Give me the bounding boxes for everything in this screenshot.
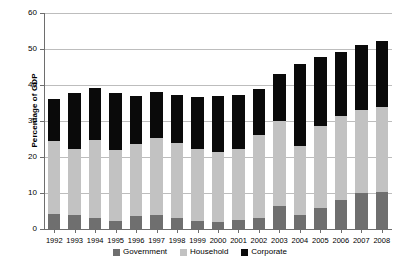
legend-label: Corporate bbox=[251, 248, 287, 256]
bar-segment-household[interactable] bbox=[130, 144, 143, 216]
bar-segment-government[interactable] bbox=[48, 214, 61, 229]
bar-column[interactable] bbox=[109, 13, 122, 229]
legend-item-government[interactable]: Government bbox=[113, 248, 167, 256]
bar-segment-government[interactable] bbox=[273, 206, 286, 229]
bar-segment-corporate[interactable] bbox=[355, 45, 368, 111]
bar-segment-household[interactable] bbox=[253, 135, 266, 218]
bar-segment-corporate[interactable] bbox=[48, 99, 61, 141]
bar-column[interactable] bbox=[68, 13, 81, 229]
x-tick-mark bbox=[95, 229, 96, 233]
bar-column[interactable] bbox=[171, 13, 184, 229]
y-tick-mark bbox=[40, 49, 44, 50]
x-tick-mark bbox=[382, 229, 383, 233]
bar-segment-government[interactable] bbox=[376, 192, 389, 229]
bar-column[interactable] bbox=[48, 13, 61, 229]
x-tick-label: 1995 bbox=[105, 237, 127, 245]
y-tick-label: 30 bbox=[11, 117, 37, 125]
bar-segment-government[interactable] bbox=[68, 215, 81, 229]
bar-segment-government[interactable] bbox=[150, 215, 163, 229]
bar-segment-government[interactable] bbox=[212, 222, 225, 229]
x-tick-label: 2003 bbox=[268, 237, 290, 245]
bar-segment-government[interactable] bbox=[232, 220, 245, 229]
bar-segment-corporate[interactable] bbox=[232, 95, 245, 149]
bar-segment-government[interactable] bbox=[89, 218, 102, 229]
x-tick-label: 2005 bbox=[309, 237, 331, 245]
legend-label: Government bbox=[123, 248, 167, 256]
x-tick-mark bbox=[136, 229, 137, 233]
bar-segment-government[interactable] bbox=[253, 218, 266, 229]
bar-segment-government[interactable] bbox=[130, 216, 143, 229]
bar-column[interactable] bbox=[355, 13, 368, 229]
bar-segment-corporate[interactable] bbox=[335, 52, 348, 116]
bar-column[interactable] bbox=[314, 13, 327, 229]
bar-segment-household[interactable] bbox=[191, 149, 204, 221]
legend-item-household[interactable]: Household bbox=[180, 248, 228, 256]
bar-segment-household[interactable] bbox=[355, 110, 368, 193]
x-tick-mark bbox=[198, 229, 199, 233]
bar-segment-household[interactable] bbox=[232, 149, 245, 220]
plot-area bbox=[44, 13, 392, 229]
bar-segment-household[interactable] bbox=[68, 149, 81, 215]
x-tick-mark bbox=[279, 229, 280, 233]
bar-segment-government[interactable] bbox=[109, 221, 122, 229]
bar-segment-household[interactable] bbox=[294, 146, 307, 214]
bar-segment-government[interactable] bbox=[355, 193, 368, 229]
bar-segment-corporate[interactable] bbox=[150, 92, 163, 138]
bar-column[interactable] bbox=[191, 13, 204, 229]
bar-column[interactable] bbox=[294, 13, 307, 229]
bar-segment-corporate[interactable] bbox=[273, 74, 286, 121]
x-tick-label: 2004 bbox=[289, 237, 311, 245]
legend-swatch-corporate bbox=[241, 249, 248, 256]
y-tick-label: 60 bbox=[11, 9, 37, 17]
bar-segment-government[interactable] bbox=[314, 208, 327, 229]
bar-segment-corporate[interactable] bbox=[171, 95, 184, 143]
legend-swatch-government bbox=[113, 249, 120, 256]
bar-segment-household[interactable] bbox=[48, 141, 61, 214]
bar-segment-corporate[interactable] bbox=[89, 88, 102, 140]
x-tick-mark bbox=[157, 229, 158, 233]
x-tick-mark bbox=[116, 229, 117, 233]
bar-segment-household[interactable] bbox=[273, 121, 286, 206]
bar-column[interactable] bbox=[376, 13, 389, 229]
bar-column[interactable] bbox=[89, 13, 102, 229]
x-tick-label: 2007 bbox=[350, 237, 372, 245]
y-tick-label: 20 bbox=[11, 153, 37, 161]
bar-segment-corporate[interactable] bbox=[314, 57, 327, 126]
bar-segment-corporate[interactable] bbox=[109, 93, 122, 150]
bar-column[interactable] bbox=[130, 13, 143, 229]
bar-segment-corporate[interactable] bbox=[294, 64, 307, 146]
y-axis-line bbox=[44, 13, 45, 229]
bar-column[interactable] bbox=[232, 13, 245, 229]
bar-segment-household[interactable] bbox=[150, 138, 163, 215]
bar-segment-household[interactable] bbox=[376, 107, 389, 193]
bar-segment-household[interactable] bbox=[89, 140, 102, 218]
bar-column[interactable] bbox=[253, 13, 266, 229]
bar-segment-household[interactable] bbox=[109, 150, 122, 221]
bar-segment-government[interactable] bbox=[335, 200, 348, 229]
y-tick-label: 0 bbox=[11, 225, 37, 233]
bar-segment-government[interactable] bbox=[294, 215, 307, 229]
x-tick-label: 1994 bbox=[84, 237, 106, 245]
bar-segment-corporate[interactable] bbox=[212, 96, 225, 152]
x-tick-label: 1992 bbox=[43, 237, 65, 245]
bar-segment-corporate[interactable] bbox=[68, 93, 81, 148]
bar-segment-corporate[interactable] bbox=[130, 96, 143, 144]
legend-label: Household bbox=[190, 248, 228, 256]
bar-segment-corporate[interactable] bbox=[191, 97, 204, 149]
x-tick-label: 2008 bbox=[371, 237, 393, 245]
bar-segment-household[interactable] bbox=[314, 126, 327, 208]
bar-segment-household[interactable] bbox=[212, 152, 225, 222]
bar-segment-corporate[interactable] bbox=[376, 41, 389, 107]
bar-segment-government[interactable] bbox=[191, 221, 204, 229]
bar-column[interactable] bbox=[212, 13, 225, 229]
bar-column[interactable] bbox=[150, 13, 163, 229]
bar-column[interactable] bbox=[273, 13, 286, 229]
bar-segment-household[interactable] bbox=[171, 143, 184, 219]
legend-item-corporate[interactable]: Corporate bbox=[241, 248, 287, 256]
x-tick-label: 1998 bbox=[166, 237, 188, 245]
bar-segment-household[interactable] bbox=[335, 116, 348, 201]
bar-column[interactable] bbox=[335, 13, 348, 229]
bar-segment-corporate[interactable] bbox=[253, 89, 266, 135]
x-tick-mark bbox=[218, 229, 219, 233]
bar-segment-government[interactable] bbox=[171, 218, 184, 229]
